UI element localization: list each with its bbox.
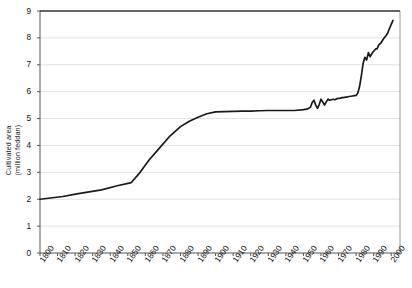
y-tick-label: 1 — [17, 222, 31, 231]
chart-container: Cultivated area (million feddan) 0123456… — [0, 0, 412, 288]
y-tick-label: 0 — [17, 249, 31, 258]
y-tick-label: 5 — [17, 114, 31, 123]
y-tick-label: 4 — [17, 141, 31, 150]
y-tick-label: 8 — [17, 33, 31, 42]
y-tick-label: 3 — [17, 168, 31, 177]
y-tick-label: 2 — [17, 195, 31, 204]
gridlines — [40, 38, 400, 226]
y-tick-label: 9 — [17, 7, 31, 16]
y-tick-label: 7 — [17, 60, 31, 69]
y-tick-label: 6 — [17, 87, 31, 96]
